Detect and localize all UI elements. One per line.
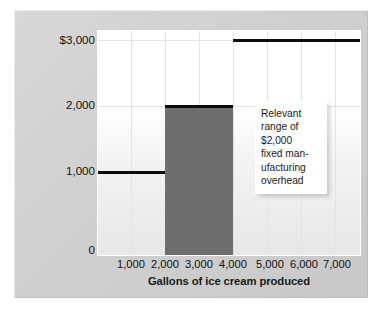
y-tick-label-3000: $3,000	[43, 33, 95, 46]
y-tick-label-0: 0	[43, 243, 95, 256]
step-line-3000	[233, 39, 360, 42]
step-line-2000	[165, 105, 233, 108]
y-tick-label-2000: 2,000	[43, 98, 95, 111]
callout-line-1: Relevant	[261, 107, 327, 120]
x-tick-label-7000: 7,000	[315, 258, 359, 270]
y-tick-label-1000: 1,000	[43, 164, 95, 177]
x-axis-tick-labels: 1,000 2,000 3,000 4,000 5,000 6,000 7,00…	[98, 258, 360, 274]
callout-line-3: $2,000	[261, 134, 327, 147]
gridline-vertical-4000	[233, 31, 234, 255]
callout-line-4: fixed man-	[261, 147, 327, 160]
x-axis-title: Gallons of ice cream produced	[98, 275, 360, 287]
y-axis-tick-labels: $3,000 2,000 1,000 0	[40, 0, 95, 315]
callout-line-5: ufacturing	[261, 161, 327, 174]
callout-line-6: overhead	[261, 174, 327, 187]
step-line-1000	[98, 171, 165, 174]
gridline-vertical-1000	[131, 31, 132, 255]
bar-relevant-range	[165, 106, 233, 255]
gridline-vertical-7000	[335, 31, 336, 255]
relevant-range-callout: Relevant range of $2,000 fixed man- ufac…	[255, 101, 327, 194]
chart-figure: Manufacturing overhead $3,000 2,000 1,00…	[0, 0, 383, 315]
callout-line-2: range of	[261, 120, 327, 133]
